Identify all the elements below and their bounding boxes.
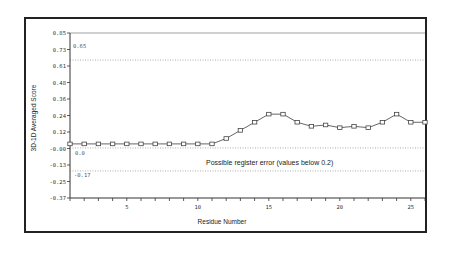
data-point-marker: [238, 129, 242, 133]
ref-label-neg017: -0.17: [74, 172, 91, 178]
y-tick-label: -0.25: [49, 179, 66, 185]
data-point-marker: [224, 137, 228, 141]
x-tick-label: 20: [336, 204, 343, 210]
data-point-marker: [309, 125, 313, 129]
register-error-annotation: Possible register error (values below 0.…: [206, 159, 333, 167]
ref-label-0: 0.0: [75, 150, 85, 156]
x-tick-label: 25: [407, 204, 414, 210]
data-point-marker: [196, 142, 200, 146]
data-point-marker: [82, 142, 86, 146]
y-tick-label: 0.73: [53, 47, 66, 53]
data-point-marker: [68, 142, 72, 146]
data-point-marker: [366, 126, 370, 130]
y-tick-label: 0.36: [53, 96, 66, 102]
x-tick-label: 5: [125, 204, 128, 210]
reference-lines: [70, 33, 425, 171]
y-tick-label: -0.13: [49, 162, 66, 168]
data-point-marker: [352, 125, 356, 129]
data-point-marker: [252, 120, 256, 124]
data-point-marker: [394, 112, 398, 116]
data-point-marker: [153, 142, 157, 146]
y-tick-label: 0.85: [53, 30, 66, 36]
y-tick-label: -0.37: [49, 195, 66, 201]
data-point-marker: [167, 142, 171, 146]
data-point-marker: [380, 120, 384, 124]
data-point-marker: [409, 120, 413, 124]
data-point-marker: [295, 120, 299, 124]
data-point-marker: [281, 112, 285, 116]
ref-label-065: 0.65: [73, 43, 86, 49]
y-axis-title: 3D-1D Averaged Score: [30, 84, 38, 151]
data-point-marker: [181, 142, 185, 146]
data-point-marker: [125, 142, 129, 146]
y-tick-label: 0.24: [53, 113, 67, 119]
data-point-marker: [323, 123, 327, 127]
x-tick-label: 10: [194, 204, 201, 210]
x-tick-label: 15: [265, 204, 272, 210]
y-tick-label: 0.12: [53, 129, 66, 135]
line-chart: 0.850.730.610.480.360.240.12-0.00-0.13-0…: [0, 0, 450, 253]
data-point-marker: [96, 142, 100, 146]
x-axis-title: Residue Number: [198, 218, 248, 225]
data-point-marker: [210, 142, 214, 146]
y-tick-label: 0.61: [53, 63, 66, 69]
data-point-marker: [338, 126, 342, 130]
data-point-marker: [267, 112, 271, 116]
data-series: [68, 112, 427, 145]
data-point-marker: [423, 120, 427, 124]
y-tick-label: -0.00: [49, 146, 66, 152]
series-line: [70, 114, 425, 144]
data-point-marker: [110, 142, 114, 146]
y-tick-label: 0.48: [53, 80, 66, 86]
data-point-marker: [139, 142, 143, 146]
axes: 0.850.730.610.480.360.240.12-0.00-0.13-0…: [49, 30, 425, 210]
